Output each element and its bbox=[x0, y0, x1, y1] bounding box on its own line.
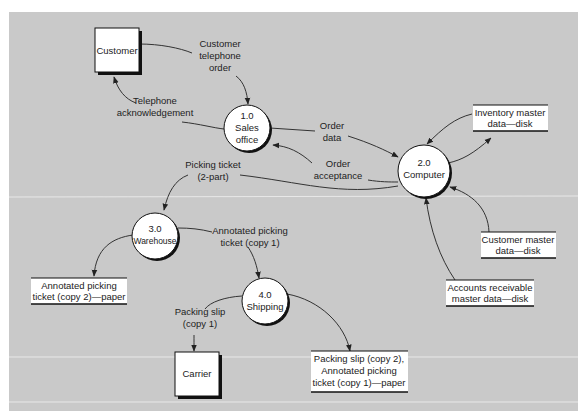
label-order-data: Order data bbox=[320, 120, 344, 143]
data-flow-diagram: Customer telephone order Telephone ackno… bbox=[0, 0, 587, 419]
svg-text:ticket (copy 1)—paper: ticket (copy 1)—paper bbox=[313, 377, 406, 388]
svg-text:Packing slip: Packing slip bbox=[175, 306, 226, 317]
svg-text:Annotated picking: Annotated picking bbox=[212, 225, 288, 236]
svg-text:ticket (copy 2)—paper: ticket (copy 2)—paper bbox=[33, 291, 126, 302]
svg-text:Annotated picking: Annotated picking bbox=[41, 280, 117, 291]
svg-text:Computer: Computer bbox=[403, 169, 445, 180]
svg-text:(2-part): (2-part) bbox=[197, 171, 228, 182]
svg-text:acceptance: acceptance bbox=[314, 170, 363, 181]
svg-text:Inventory master: Inventory master bbox=[475, 107, 546, 118]
svg-text:data: data bbox=[323, 132, 342, 143]
store-customer-master: Customer master data—disk bbox=[481, 232, 556, 258]
svg-text:Sales: Sales bbox=[235, 122, 259, 133]
store-picking-ticket-copy2: Annotated picking ticket (copy 2)—paper bbox=[31, 278, 127, 304]
svg-text:order: order bbox=[209, 62, 231, 73]
svg-text:3.0: 3.0 bbox=[148, 223, 161, 234]
svg-text:4.0: 4.0 bbox=[258, 289, 271, 300]
svg-text:telephone: telephone bbox=[199, 50, 241, 61]
svg-text:office: office bbox=[236, 134, 259, 145]
svg-text:Packing slip (copy 2),: Packing slip (copy 2), bbox=[314, 353, 404, 364]
svg-text:master data—disk: master data—disk bbox=[452, 293, 529, 304]
svg-text:Customer: Customer bbox=[199, 38, 240, 49]
svg-text:Order: Order bbox=[320, 120, 344, 131]
svg-text:Warehouse: Warehouse bbox=[133, 236, 176, 246]
svg-text:Customer: Customer bbox=[96, 45, 137, 56]
svg-text:(copy 1): (copy 1) bbox=[183, 318, 217, 329]
svg-text:Customer master: Customer master bbox=[482, 234, 555, 245]
svg-text:Telephone: Telephone bbox=[133, 95, 177, 106]
store-packing-slip-copy2: Packing slip (copy 2), Annotated picking… bbox=[311, 351, 408, 392]
svg-text:data—disk: data—disk bbox=[488, 118, 533, 129]
svg-text:Order: Order bbox=[326, 158, 350, 169]
diagram-panel bbox=[9, 12, 578, 411]
svg-text:Annotated picking: Annotated picking bbox=[321, 365, 397, 376]
svg-text:Carrier: Carrier bbox=[182, 368, 211, 379]
entity-customer: Customer bbox=[95, 28, 142, 75]
svg-text:data—disk: data—disk bbox=[496, 245, 541, 256]
svg-text:Accounts receivable: Accounts receivable bbox=[447, 282, 532, 293]
svg-text:acknowledgement: acknowledgement bbox=[117, 107, 194, 118]
store-inventory-master: Inventory master data—disk bbox=[473, 105, 548, 131]
svg-text:1.0: 1.0 bbox=[240, 110, 253, 121]
label-annotated-picking-ticket-copy1: Annotated picking ticket (copy 1) bbox=[212, 225, 288, 248]
entity-carrier: Carrier bbox=[175, 352, 222, 399]
svg-text:Picking ticket: Picking ticket bbox=[185, 159, 241, 170]
svg-text:Shipping: Shipping bbox=[247, 301, 284, 312]
store-accounts-receivable: Accounts receivable master data—disk bbox=[446, 280, 534, 306]
svg-text:ticket (copy 1): ticket (copy 1) bbox=[220, 237, 279, 248]
svg-text:2.0: 2.0 bbox=[417, 157, 430, 168]
